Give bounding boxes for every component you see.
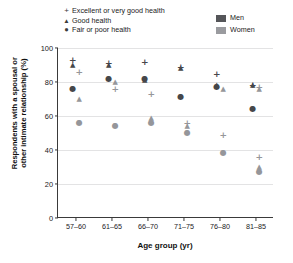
legend-health: + Excellent or very good health ▲ Good h… <box>62 6 165 35</box>
x-tick-label: 71–75 <box>174 222 194 231</box>
data-point-dot-women: ● <box>256 168 263 176</box>
legend-label-excellent: Excellent or very good health <box>72 6 165 16</box>
legend-label-good: Good health <box>72 16 111 26</box>
grid-line <box>58 150 273 151</box>
plus-marker-icon: + <box>62 6 71 16</box>
y-tick-label: 40 <box>45 146 58 155</box>
women-color-swatch-icon <box>216 27 226 34</box>
grid-line <box>58 116 273 117</box>
data-point-plus-men: + <box>213 69 221 78</box>
grid-line <box>58 48 273 49</box>
x-tick-mark <box>219 217 220 221</box>
legend-item-women: Women <box>216 24 255 36</box>
y-tick-label: 100 <box>41 44 58 53</box>
data-point-dot-men: ● <box>213 83 220 91</box>
data-point-tri-men: ▲ <box>106 62 111 69</box>
data-point-tri-men: ▲ <box>142 77 147 84</box>
x-tick-label: 81–85 <box>246 222 266 231</box>
y-tick-label: 20 <box>45 180 58 189</box>
data-point-dot-women: ● <box>148 119 155 127</box>
data-point-dot-men: ● <box>177 93 184 101</box>
legend-label-fair: Fair or poor health <box>72 25 131 35</box>
data-point-tri-men: ▲ <box>178 65 183 72</box>
x-tick-mark <box>75 217 76 221</box>
y-tick-label: 60 <box>45 112 58 121</box>
data-point-plus-women: + <box>75 67 83 76</box>
data-point-dot-women: ● <box>112 122 119 130</box>
x-tick-mark <box>147 217 148 221</box>
legend-item-fair: ● Fair or poor health <box>62 25 165 35</box>
x-tick-mark <box>111 217 112 221</box>
y-axis-title: Respondents with a spousal or other inti… <box>10 28 28 198</box>
legend-item-men: Men <box>216 12 255 24</box>
data-point-plus-women: + <box>219 130 227 139</box>
data-point-dot-women: ● <box>184 129 191 137</box>
data-point-plus-women: + <box>147 89 155 98</box>
y-tick-label: 80 <box>45 78 58 87</box>
x-axis-title: Age group (yr) <box>57 241 273 250</box>
grid-line <box>58 184 273 185</box>
grid-line <box>58 82 273 83</box>
data-point-dot-women: ● <box>76 119 83 127</box>
legend-label-women: Women <box>230 24 255 36</box>
legend-sex: Men Women <box>216 12 255 36</box>
x-tick-label: 66–70 <box>138 222 158 231</box>
x-tick-label: 57–60 <box>66 222 86 231</box>
data-point-tri-women: ▲ <box>256 85 261 92</box>
chart-figure: + Excellent or very good health ▲ Good h… <box>0 0 293 263</box>
x-tick-label: 61–65 <box>102 222 122 231</box>
men-color-swatch-icon <box>216 15 226 22</box>
y-tick-label: 0 <box>49 214 58 223</box>
legend-item-excellent: + Excellent or very good health <box>62 6 165 16</box>
data-point-dot-men: ● <box>249 105 256 113</box>
data-point-plus-men: + <box>141 57 149 66</box>
y-axis-title-line2: other intimate relationship (%) <box>19 59 28 168</box>
y-axis-title-line1: Respondents with a spousal or <box>10 57 19 169</box>
circle-marker-icon: ● <box>62 25 71 35</box>
x-tick-label: 76–80 <box>210 222 230 231</box>
triangle-marker-icon: ▲ <box>62 16 71 26</box>
data-point-plus-women: + <box>111 84 119 93</box>
data-point-dot-women: ● <box>220 149 227 157</box>
data-point-dot-men: ● <box>105 75 112 83</box>
data-point-plus-women: + <box>255 152 263 161</box>
data-point-dot-men: ● <box>69 85 76 93</box>
data-point-tri-women: ▲ <box>220 85 225 92</box>
x-tick-mark <box>255 217 256 221</box>
data-point-tri-women: ▲ <box>76 96 81 103</box>
x-tick-mark <box>183 217 184 221</box>
legend-label-men: Men <box>230 12 244 24</box>
plot-area: 02040608010057–6061–6566–7071–7576–8081–… <box>57 48 273 218</box>
legend-item-good: ▲ Good health <box>62 16 165 26</box>
